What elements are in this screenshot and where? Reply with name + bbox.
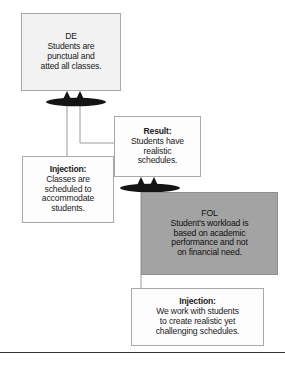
- arrow-to-result-left-icon: [137, 177, 144, 185]
- connector-lines-top: [67, 102, 114, 156]
- arrow-to-de-left-icon: [63, 91, 70, 99]
- node-injection-left-line-4: students.: [51, 204, 85, 214]
- node-injection-left[interactable]: Injection: Classes are scheduled to acco…: [22, 156, 114, 223]
- arrow-to-result-right-icon: [150, 177, 157, 185]
- node-de-line-3: atted all classes.: [41, 62, 102, 72]
- node-de[interactable]: DE Students are punctual and atted all c…: [21, 13, 121, 91]
- line-result-to-junction: [80, 102, 114, 143]
- and-junction-bottom-ellipse: [120, 184, 180, 192]
- node-result-line-1: Students have: [131, 137, 184, 147]
- node-fol-line-4: on financial need.: [177, 248, 242, 258]
- node-result-line-3: schedules.: [138, 156, 178, 166]
- node-fol[interactable]: FOL Student's workload is based on acade…: [141, 192, 278, 275]
- diagram-canvas: DE Students are punctual and atted all c…: [0, 0, 285, 367]
- node-injection-bottom-line-3: challenging schedules.: [156, 327, 240, 337]
- node-injection-bottom[interactable]: Injection: We work with students to crea…: [131, 288, 264, 346]
- and-junction-top-ellipse: [46, 98, 106, 106]
- arrow-to-de-right-icon: [76, 91, 83, 99]
- footer-divider: [0, 352, 285, 353]
- node-result[interactable]: Result: Students have realistic schedule…: [114, 116, 201, 177]
